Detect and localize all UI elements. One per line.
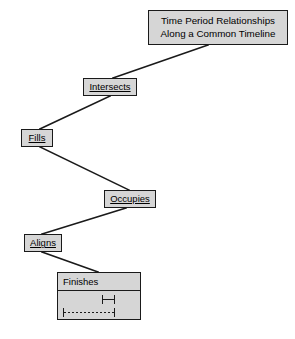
connector-fills-to-occupies (40, 147, 129, 190)
node-root-title[interactable]: Time Period Relationships Along a Common… (148, 10, 288, 45)
node-fills[interactable]: Fills (21, 129, 53, 147)
timeline-bar-upper (102, 295, 115, 304)
connector-aligns-to-finishes (42, 252, 98, 272)
timeline-lower-end-cap-icon (114, 308, 115, 317)
timeline-upper-span (103, 299, 114, 300)
connector-root-to-intersects (113, 45, 208, 78)
node-finishes-timeline-illustration (58, 291, 140, 319)
timeline-upper-end-cap-icon (114, 295, 115, 304)
timeline-lower-span (64, 312, 114, 313)
node-aligns[interactable]: Aligns (24, 234, 62, 252)
timeline-bar-lower (63, 308, 115, 317)
root-title-line-2: Along a Common Timeline (161, 28, 276, 41)
node-intersects-label: Intersects (89, 81, 130, 93)
node-intersects[interactable]: Intersects (83, 78, 137, 96)
connector-occupies-to-aligns (42, 208, 126, 234)
node-occupies-label: Occupies (110, 193, 150, 205)
node-finishes[interactable]: Finishes (57, 272, 141, 320)
node-occupies[interactable]: Occupies (104, 190, 156, 208)
connector-intersects-to-fills (40, 96, 110, 129)
relationship-hierarchy-diagram: Time Period Relationships Along a Common… (0, 0, 295, 339)
node-finishes-title: Finishes (58, 273, 140, 291)
connector-layer (0, 0, 295, 339)
node-fills-label: Fills (29, 132, 46, 144)
node-aligns-label: Aligns (30, 237, 56, 249)
root-title-line-1: Time Period Relationships (161, 15, 275, 28)
